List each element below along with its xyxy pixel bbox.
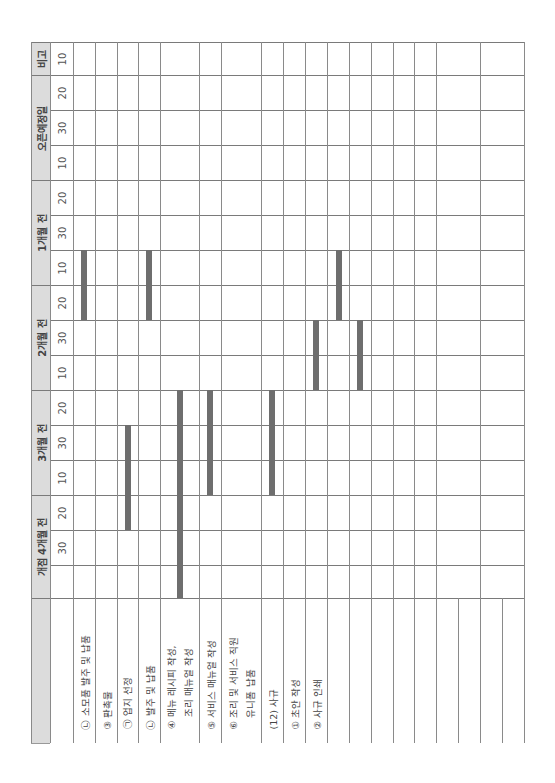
period-header-4: 개점 4개월 전 — [32, 495, 50, 598]
day-label: 20 — [54, 75, 70, 110]
schedule-bar — [125, 425, 131, 530]
grid-row-line — [31, 390, 524, 391]
day-label: 10 — [54, 355, 70, 390]
schedule-bar — [177, 390, 183, 598]
day-label: 20 — [54, 180, 70, 215]
task-label-line: 유니폼 납품 — [241, 669, 258, 729]
day-label: 30 — [54, 320, 70, 355]
grid-row-line — [31, 598, 524, 599]
grid-row-line — [50, 250, 524, 251]
task-label: ㉡ 발주 및 납품 — [138, 602, 160, 739]
grid-row-line — [31, 180, 524, 181]
schedule-bar — [269, 390, 275, 495]
grid-row-line — [50, 110, 524, 111]
grid-col-line — [327, 42, 328, 743]
grid-col-line — [73, 42, 74, 743]
task-label-line: ① 초안 작성 — [286, 678, 303, 729]
task-label: ② 사규 인쇄 — [305, 602, 327, 739]
grid-col-line — [283, 42, 284, 743]
task-label: ⑤ 서비스 매뉴얼 작성 — [199, 602, 221, 739]
task-label: ① 초안 작성 — [283, 602, 305, 739]
grid-row-line — [50, 145, 524, 146]
period-header-1: 1개월 전 — [32, 180, 50, 285]
task-label: ㉡ 소모품 발주 및 납품 — [73, 602, 95, 739]
grid-col-line — [305, 42, 306, 743]
grid-col-line — [95, 42, 96, 743]
task-label-line: ㉡ 발주 및 납품 — [141, 665, 158, 729]
grid-col-line — [393, 42, 394, 743]
day-label: 10 — [54, 460, 70, 495]
task-label-line: ㉠ 업지 선정 — [119, 677, 136, 729]
day-label: 20 — [54, 390, 70, 425]
grid-row-line — [50, 355, 524, 356]
grid-col-line — [524, 42, 525, 743]
grid-row-line — [50, 460, 524, 461]
period-header-3: 3개월 전 — [32, 390, 50, 495]
day-label: 10 — [54, 250, 70, 285]
grid-col-line — [199, 42, 200, 743]
grid-row-line — [31, 42, 524, 43]
day-label: 20 — [54, 285, 70, 320]
task-label-line: (12) 사규 — [264, 688, 281, 729]
grid-col-line — [349, 42, 350, 743]
task-label-line: ⑥ 조리 및 서비스 직원 — [224, 636, 241, 729]
grid-row-line — [31, 495, 524, 496]
task-label-line: ③ 판촉물 — [98, 690, 115, 729]
grid-col-line — [261, 42, 262, 743]
remarks-header: 비고 — [32, 42, 50, 75]
grid-row-line — [50, 425, 524, 426]
day-label: 10 — [54, 42, 70, 75]
grid-row-line — [50, 320, 524, 321]
grid-col-line — [414, 42, 415, 743]
schedule-bar — [146, 250, 152, 320]
grid-col-line — [31, 42, 32, 743]
task-label-line: 조리 매뉴얼 작성 — [180, 648, 197, 729]
grid-col-line — [480, 42, 481, 743]
task-label-line: ④ 메뉴 레시피 작성, — [163, 645, 180, 729]
grid-row-line — [50, 215, 524, 216]
day-label: 30 — [54, 425, 70, 460]
grid-col-line — [436, 42, 437, 743]
day-label: 10 — [54, 145, 70, 180]
period-header-0: 오픈예정일 — [32, 75, 50, 180]
grid-row-line — [31, 285, 524, 286]
task-label: ③ 판촉물 — [95, 602, 117, 739]
grid-col-line — [50, 42, 51, 743]
grid-col-line — [371, 42, 372, 743]
day-label: 30 — [54, 530, 70, 565]
grid-col-line — [221, 42, 222, 743]
period-header-2: 2개월 전 — [32, 285, 50, 390]
grid-col-line — [160, 42, 161, 743]
day-label: 20 — [54, 495, 70, 530]
schedule-bar — [336, 250, 342, 320]
grid-col-line — [117, 42, 118, 743]
task-label: (12) 사규 — [261, 602, 283, 739]
task-label-line: ㉡ 소모품 발주 및 납품 — [76, 635, 93, 729]
grid-row-line — [50, 530, 524, 531]
day-label: 30 — [54, 110, 70, 145]
task-label-line: ② 사규 인쇄 — [308, 678, 325, 729]
schedule-bar — [313, 320, 319, 390]
grid-row-line — [31, 75, 524, 76]
schedule-bar — [357, 320, 363, 390]
day-label: 30 — [54, 215, 70, 250]
gantt-schedule-page: 비고오픈예정일1개월 전2개월 전3개월 전개점 4개월 전1020301020… — [0, 0, 555, 783]
grid-col-line — [502, 598, 503, 743]
task-label-line: ⑤ 서비스 매뉴얼 작성 — [202, 639, 219, 729]
grid-bottom-line — [31, 743, 50, 744]
grid-row-line — [50, 565, 524, 566]
schedule-bar — [207, 390, 213, 495]
grid-col-line — [138, 42, 139, 743]
grid-col-line — [458, 598, 459, 743]
task-label: ④ 메뉴 레시피 작성,조리 매뉴얼 작성 — [160, 602, 199, 739]
task-label: ⑥ 조리 및 서비스 직원유니폼 납품 — [221, 602, 261, 739]
task-label: ㉠ 업지 선정 — [117, 602, 138, 739]
schedule-bar — [81, 250, 87, 320]
